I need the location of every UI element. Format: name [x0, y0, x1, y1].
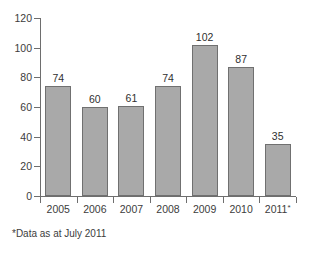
- bar-value-label: 74: [52, 72, 64, 84]
- bar-group[interactable]: 60: [82, 93, 108, 196]
- chart-footnote: *Data as at July 2011: [12, 228, 106, 240]
- x-axis-line: [40, 196, 296, 197]
- x-axis-tick-label: 2007: [113, 203, 150, 215]
- asterisk-icon: *: [287, 203, 290, 212]
- y-axis-tick-label: 40: [0, 132, 32, 142]
- bar[interactable]: [192, 45, 218, 196]
- bar[interactable]: [265, 144, 291, 196]
- bar-value-label: 87: [235, 53, 247, 65]
- y-axis-tick-label: 100: [0, 43, 32, 53]
- y-axis-tick-label: 20: [0, 161, 32, 171]
- y-axis-tick-label: 120: [0, 13, 32, 23]
- bar-group[interactable]: 61: [118, 92, 144, 196]
- bar-group[interactable]: 74: [45, 72, 71, 196]
- bar-group[interactable]: 74: [155, 72, 181, 196]
- plot-area: 746061741028735: [40, 18, 296, 196]
- y-axis-tick-label: 80: [0, 72, 32, 82]
- bar[interactable]: [45, 86, 71, 196]
- x-axis-tick-label: 2005: [40, 203, 77, 215]
- bar[interactable]: [155, 86, 181, 196]
- x-axis-tick-label: 2011*: [259, 203, 296, 215]
- bar-value-label: 35: [272, 130, 284, 142]
- bar[interactable]: [82, 107, 108, 196]
- bar-group[interactable]: 102: [192, 31, 218, 196]
- bar-value-label: 61: [126, 92, 138, 104]
- x-axis-tick-label: 2006: [77, 203, 114, 215]
- bar[interactable]: [118, 106, 144, 196]
- bar-value-label: 102: [196, 31, 214, 43]
- bar[interactable]: [228, 67, 254, 196]
- bar-group[interactable]: 35: [265, 130, 291, 196]
- y-axis-tick-label: 60: [0, 102, 32, 112]
- bar-value-label: 60: [89, 93, 101, 105]
- y-axis-tick-label: 0: [0, 191, 32, 201]
- x-axis-tick-label: 2010: [223, 203, 260, 215]
- bar-value-label: 74: [162, 72, 174, 84]
- x-axis-tick-label: 2009: [186, 203, 223, 215]
- x-axis-tick: [296, 197, 297, 203]
- bar-chart: 020406080100120 746061741028735 20052006…: [0, 0, 310, 257]
- x-axis-tick-label: 2008: [150, 203, 187, 215]
- bar-group[interactable]: 87: [228, 53, 254, 196]
